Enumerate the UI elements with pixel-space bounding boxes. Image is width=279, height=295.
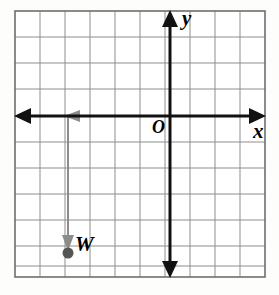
point-w-label: W [75, 234, 94, 255]
origin-label: O [152, 118, 165, 136]
y-axis-label: y [182, 8, 191, 29]
point-w-dot [63, 248, 74, 259]
x-axis-label: x [253, 121, 264, 142]
coordinate-plane-svg [0, 0, 279, 295]
coordinate-plane-figure: y x O W [0, 0, 279, 295]
